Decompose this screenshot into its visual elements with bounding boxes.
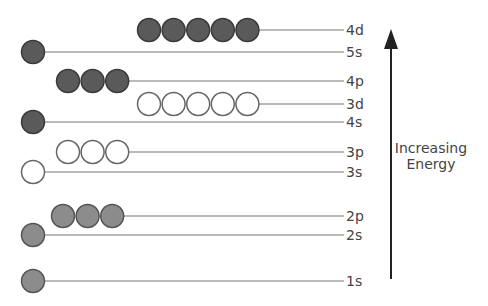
orbital-level-2s: 2s xyxy=(22,224,363,247)
level-label: 4d xyxy=(346,22,364,38)
level-label: 5s xyxy=(346,44,362,60)
level-label: 4s xyxy=(346,114,362,130)
level-label: 2s xyxy=(346,227,362,243)
electron-slot xyxy=(57,70,80,93)
electron-slot xyxy=(22,41,45,64)
electron-slot xyxy=(22,161,45,184)
electron-slot xyxy=(101,205,124,228)
electron-slot xyxy=(138,93,161,116)
electron-slot xyxy=(106,141,129,164)
orbital-level-2p: 2p xyxy=(52,205,364,228)
level-label: 1s xyxy=(346,273,362,289)
energy-label-line2: Energy xyxy=(406,156,455,172)
electron-slot xyxy=(22,270,45,293)
energy-levels: 4d5s4p3d4s3p3s2p2s1s xyxy=(22,19,364,293)
level-label: 2p xyxy=(346,208,364,224)
electron-slot xyxy=(106,70,129,93)
level-label: 3p xyxy=(346,144,364,160)
level-label: 4p xyxy=(346,73,364,89)
orbital-energy-diagram: 4d5s4p3d4s3p3s2p2s1s Increasing Energy xyxy=(0,0,488,306)
electron-slot xyxy=(236,93,259,116)
electron-slot xyxy=(76,205,99,228)
level-label: 3d xyxy=(346,96,364,112)
electron-slot xyxy=(81,70,104,93)
electron-slot xyxy=(81,141,104,164)
electron-slot xyxy=(236,19,259,42)
electron-slot xyxy=(187,93,210,116)
electron-slot xyxy=(211,19,234,42)
electron-slot xyxy=(22,224,45,247)
electron-slot xyxy=(138,19,161,42)
electron-slot xyxy=(187,19,210,42)
electron-slot xyxy=(57,141,80,164)
orbital-level-5s: 5s xyxy=(22,41,363,64)
level-label: 3s xyxy=(346,164,362,180)
orbital-level-4d: 4d xyxy=(138,19,364,42)
electron-slot xyxy=(211,93,234,116)
electron-slot xyxy=(22,111,45,134)
orbital-level-3d: 3d xyxy=(138,93,364,116)
energy-label-line1: Increasing xyxy=(395,140,467,156)
orbital-level-3p: 3p xyxy=(57,141,364,164)
orbital-level-3s: 3s xyxy=(22,161,363,184)
orbital-level-1s: 1s xyxy=(22,270,363,293)
orbital-level-4p: 4p xyxy=(57,70,364,93)
electron-slot xyxy=(162,19,185,42)
electron-slot xyxy=(162,93,185,116)
electron-slot xyxy=(52,205,75,228)
energy-arrow-head-icon xyxy=(384,29,398,49)
